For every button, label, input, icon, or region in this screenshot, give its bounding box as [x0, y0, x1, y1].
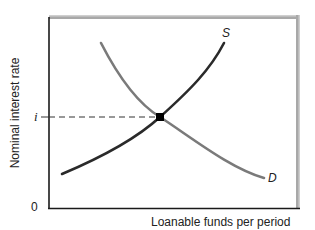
frame-right-highlight: [299, 15, 301, 209]
origin-label: 0: [31, 200, 38, 214]
x-axis-label: Loanable funds per period: [151, 215, 290, 229]
chart-canvas: [0, 0, 315, 230]
interest-rate-tick-label: i: [34, 109, 38, 125]
frame-top-highlight: [49, 15, 299, 17]
equilibrium-point: [156, 113, 164, 121]
supply-curve: [62, 43, 224, 174]
demand-curve: [101, 43, 264, 178]
y-axis-label: Nominal interest rate: [8, 58, 22, 169]
loanable-funds-chart: Nominal interest rate Loanable funds per…: [0, 0, 315, 230]
demand-curve-label: D: [268, 171, 277, 185]
supply-curve-label: S: [222, 26, 230, 40]
